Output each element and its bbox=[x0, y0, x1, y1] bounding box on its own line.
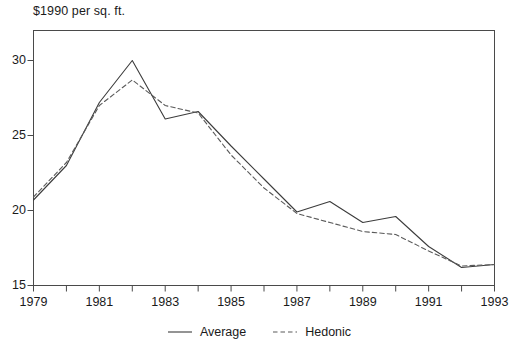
x-tick-label: 1989 bbox=[340, 295, 386, 309]
y-tick-label: 25 bbox=[0, 128, 26, 142]
legend-label-hedonic: Hedonic bbox=[305, 325, 351, 339]
y-tick-label: 20 bbox=[0, 203, 26, 217]
legend-swatch-solid bbox=[167, 327, 193, 337]
legend-entry-hedonic: Hedonic bbox=[272, 325, 351, 339]
y-tick-label: 15 bbox=[0, 278, 26, 292]
plot-frame bbox=[34, 31, 495, 286]
x-tick-label: 1979 bbox=[11, 295, 57, 309]
x-tick-label: 1991 bbox=[406, 295, 452, 309]
x-tick-label: 1987 bbox=[274, 295, 320, 309]
x-tick-label: 1983 bbox=[142, 295, 188, 309]
x-tick-label: 1981 bbox=[76, 295, 122, 309]
data-series-group bbox=[34, 61, 495, 268]
series-line-hedonic bbox=[34, 80, 495, 266]
chart-figure: $1990 per sq. ft. 15202530 1979198119831… bbox=[0, 0, 518, 348]
y-axis-ticks bbox=[28, 61, 34, 286]
legend-label-average: Average bbox=[200, 325, 246, 339]
legend-swatch-dashed bbox=[272, 327, 298, 337]
series-line-average bbox=[34, 61, 495, 268]
x-tick-label: 1985 bbox=[208, 295, 254, 309]
x-axis-ticks bbox=[34, 286, 495, 292]
x-tick-label: 1993 bbox=[472, 295, 518, 309]
y-tick-label: 30 bbox=[0, 53, 26, 67]
chart-legend: Average Hedonic bbox=[0, 325, 518, 339]
legend-entry-average: Average bbox=[167, 325, 246, 339]
